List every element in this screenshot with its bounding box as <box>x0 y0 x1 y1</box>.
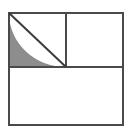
geometry-figure: Shaded region inside subdivided square <box>0 0 132 134</box>
figure-canvas <box>0 0 132 134</box>
